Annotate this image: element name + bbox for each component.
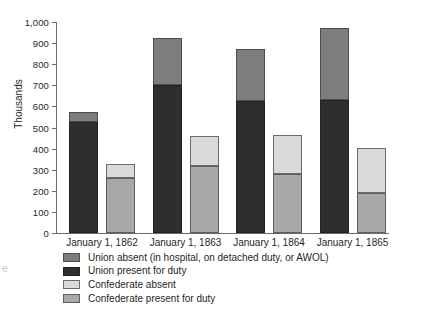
y-axis-title: Thousands (13, 79, 24, 128)
y-tick-mark (52, 128, 56, 129)
legend-swatch-conf-absent (63, 280, 80, 289)
legend-item[interactable]: Confederate present for duty (63, 292, 329, 306)
y-tick-mark (52, 106, 56, 107)
y-tick-label: 900 (33, 38, 49, 49)
page-margin-artifact: e (2, 262, 8, 274)
stacked-bar-confederate[interactable] (357, 148, 386, 233)
y-tick-mark (52, 64, 56, 65)
y-tick-mark (52, 191, 56, 192)
bar-segment-union-absent[interactable] (153, 38, 182, 84)
bar-segment-conf-absent[interactable] (273, 135, 302, 174)
bar-segment-conf-present[interactable] (273, 174, 302, 233)
stacked-bar-union[interactable] (153, 38, 182, 233)
y-tick-label: 700 (33, 80, 49, 91)
bar-segment-conf-absent[interactable] (357, 148, 386, 194)
y-tick-label: 0 (44, 228, 49, 239)
x-axis-line (56, 233, 389, 234)
legend-label: Confederate absent (88, 280, 176, 290)
y-tick-label: 800 (33, 59, 49, 70)
legend-swatch-union-present (63, 267, 80, 276)
x-tick-label: January 1, 1862 (66, 237, 138, 248)
stacked-bar-union[interactable] (320, 28, 349, 233)
bar-segment-conf-present[interactable] (190, 166, 219, 233)
chart-figure: e Thousands 1,00090080070060050040030020… (0, 0, 431, 334)
legend-item[interactable]: Union present for duty (63, 265, 329, 279)
bar-segment-union-present[interactable] (69, 122, 98, 233)
chart-legend: Union absent (in hospital, on detached d… (63, 251, 329, 305)
y-tick-mark (52, 233, 56, 234)
bar-segment-union-present[interactable] (320, 100, 349, 233)
legend-item[interactable]: Confederate absent (63, 278, 329, 292)
stacked-bar-confederate[interactable] (190, 136, 219, 233)
y-tick-label: 200 (33, 185, 49, 196)
y-axis-line (56, 22, 57, 233)
bar-segment-conf-present[interactable] (357, 193, 386, 233)
y-tick-mark (52, 43, 56, 44)
y-tick-label: 500 (33, 122, 49, 133)
y-tick-mark (52, 212, 56, 213)
stacked-bar-confederate[interactable] (273, 135, 302, 233)
bar-segment-conf-absent[interactable] (190, 136, 219, 166)
legend-swatch-union-absent (63, 253, 80, 262)
y-tick-mark (52, 85, 56, 86)
x-tick-label: January 1, 1865 (317, 237, 389, 248)
bar-segment-conf-present[interactable] (106, 178, 135, 233)
y-tick-label: 300 (33, 164, 49, 175)
legend-swatch-conf-present (63, 294, 80, 303)
bar-segment-union-absent[interactable] (69, 112, 98, 121)
bar-segment-union-present[interactable] (153, 85, 182, 233)
y-tick-label: 100 (33, 206, 49, 217)
legend-label: Union present for duty (88, 266, 186, 276)
bar-segment-conf-absent[interactable] (106, 164, 135, 178)
y-tick-mark (52, 170, 56, 171)
y-tick-label: 400 (33, 143, 49, 154)
y-tick-label: 1,000 (25, 17, 49, 28)
legend-item[interactable]: Union absent (in hospital, on detached d… (63, 251, 329, 265)
stacked-bar-union[interactable] (69, 112, 98, 233)
legend-label: Union absent (in hospital, on detached d… (88, 253, 329, 263)
stacked-bar-confederate[interactable] (106, 164, 135, 233)
y-tick-mark (52, 22, 56, 23)
bar-segment-union-present[interactable] (236, 101, 265, 233)
plot-area: 1,0009008007006005004003002001000 Januar… (56, 22, 389, 233)
y-tick-label: 600 (33, 101, 49, 112)
bar-segment-union-absent[interactable] (236, 49, 265, 101)
x-tick-label: January 1, 1863 (150, 237, 222, 248)
legend-label: Confederate present for duty (88, 294, 215, 304)
bar-segment-union-absent[interactable] (320, 28, 349, 100)
y-tick-mark (52, 149, 56, 150)
x-tick-label: January 1, 1864 (233, 237, 305, 248)
stacked-bar-union[interactable] (236, 49, 265, 233)
